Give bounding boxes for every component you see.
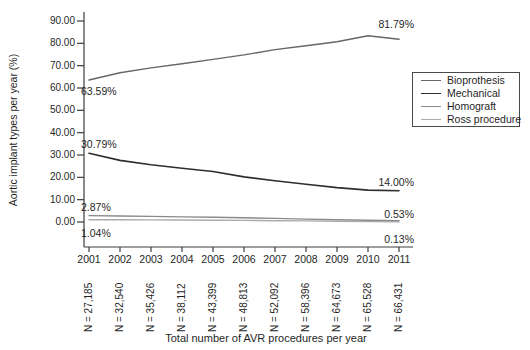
value-annotation: 63.59% bbox=[81, 85, 117, 97]
legend-label: Ross procedure bbox=[447, 113, 521, 125]
legend-label: Mechanical bbox=[447, 87, 500, 99]
procedure-count-label: N = 43,399 bbox=[207, 262, 219, 332]
procedure-count-label: N = 58,396 bbox=[300, 262, 312, 332]
value-annotation: 30.79% bbox=[81, 138, 117, 150]
value-annotation: 1.04% bbox=[81, 227, 111, 239]
legend-item: Bioprothesis bbox=[421, 74, 519, 86]
value-annotation: 81.79% bbox=[378, 18, 414, 30]
procedure-count-label: N = 38,112 bbox=[176, 262, 188, 332]
y-tick-label: 90.00 bbox=[30, 15, 75, 27]
legend-item: Homograft bbox=[421, 100, 519, 112]
procedure-count-label: N = 48,813 bbox=[238, 262, 250, 332]
procedure-count-label: N = 52,092 bbox=[269, 262, 281, 332]
legend: BioprothesisMechanicalHomograftRoss proc… bbox=[412, 72, 520, 127]
y-tick-label: 20.00 bbox=[30, 171, 75, 183]
chart-canvas bbox=[0, 0, 530, 350]
value-annotation: 0.53% bbox=[384, 208, 414, 220]
y-tick-label: 30.00 bbox=[30, 149, 75, 161]
legend-item: Mechanical bbox=[421, 87, 519, 99]
procedure-count-label: N = 64,673 bbox=[331, 262, 343, 332]
y-tick-label: 70.00 bbox=[30, 60, 75, 72]
series-line-mechanical bbox=[89, 153, 399, 191]
y-tick-label: 40.00 bbox=[30, 127, 75, 139]
y-tick-label: 50.00 bbox=[30, 104, 75, 116]
series-line-bioprothesis bbox=[89, 36, 399, 80]
legend-swatch-line bbox=[421, 119, 441, 120]
value-annotation: 14.00% bbox=[378, 176, 414, 188]
procedure-count-label: N = 27,185 bbox=[83, 262, 95, 332]
y-axis-title: Aortic implant types per year (%) bbox=[7, 20, 21, 240]
legend-swatch-line bbox=[421, 106, 441, 107]
y-tick-label: 0.00 bbox=[30, 216, 75, 228]
value-annotation: 0.13% bbox=[384, 233, 414, 245]
procedure-count-label: N = 66,431 bbox=[393, 262, 405, 332]
chart-figure: Aortic implant types per year (%) 90.008… bbox=[0, 0, 530, 350]
y-tick-label: 60.00 bbox=[30, 82, 75, 94]
x-axis-title: Total number of AVR procedures per year bbox=[100, 332, 432, 344]
legend-label: Homograft bbox=[447, 100, 496, 112]
legend-swatch-line bbox=[421, 93, 441, 94]
y-tick-label: 80.00 bbox=[30, 37, 75, 49]
procedure-count-label: N = 65,528 bbox=[362, 262, 374, 332]
procedure-count-label: N = 32,540 bbox=[114, 262, 126, 332]
value-annotation: 2.87% bbox=[81, 201, 111, 213]
legend-item: Ross procedure bbox=[421, 113, 519, 125]
legend-swatch-line bbox=[421, 80, 441, 81]
y-tick-label: 10.00 bbox=[30, 194, 75, 206]
procedure-count-label: N = 35,426 bbox=[145, 262, 157, 332]
legend-label: Bioprothesis bbox=[447, 74, 505, 86]
